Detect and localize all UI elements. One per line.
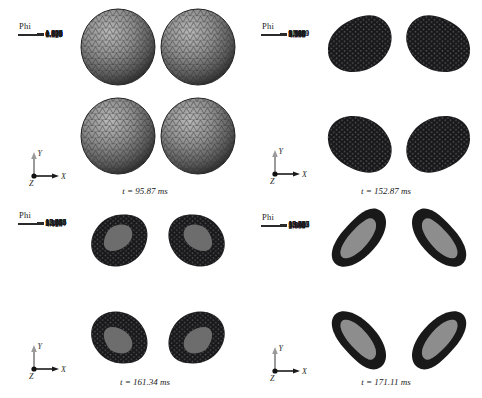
axis-label-z: Z: [270, 374, 275, 383]
colorbar-ticks: 17.219 16.128 15.036 13.945 12.854 11.76…: [37, 223, 66, 225]
body-mesh: [328, 15, 392, 72]
body-mesh: [332, 209, 386, 267]
axis-triad: Y X Z: [26, 148, 78, 188]
mesh-render-area: [319, 4, 479, 184]
body-mesh: [91, 215, 147, 267]
axis-label-y: Y: [279, 344, 285, 353]
panel-171: Phi 19.513 18.: [241, 199, 482, 398]
colorbar-legend: Phi 11.669 11.: [261, 22, 309, 36]
colorbar-gradient: [18, 34, 37, 36]
body-mesh: [332, 311, 386, 369]
axis-triad: Y X Z: [26, 341, 78, 381]
body-mesh: [328, 116, 392, 173]
body-mesh: [168, 215, 224, 267]
colorbar-tick-label: 4.123: [46, 220, 63, 228]
axis-triad: Y X Z: [267, 146, 319, 186]
figure-root: Phi 1.819 1.69: [0, 0, 482, 398]
body-mesh: [412, 209, 466, 267]
colorbar-legend: Phi 17.219 16.: [18, 211, 66, 225]
mesh-render-area: [78, 199, 238, 379]
colorbar-tick-label: 4.598: [289, 31, 306, 39]
body-mesh: [406, 116, 470, 173]
body-mesh: [412, 311, 466, 369]
axis-label-y: Y: [38, 149, 44, 158]
colorbar-legend: Phi 19.513 18.: [261, 213, 309, 227]
colorbar-gradient: [261, 225, 280, 227]
colorbar-tick-label: 0.327: [46, 31, 63, 39]
colorbar-gradient: [18, 223, 37, 225]
axis-label-z: Z: [29, 372, 34, 381]
colorbar-legend: Phi 1.819 1.69: [18, 22, 63, 36]
axis-label-x: X: [60, 365, 67, 374]
colorbar-ticks: 1.819 1.695 1.570 1.446 1.322 1.197 1.07…: [37, 34, 63, 36]
colorbar-gradient: [261, 34, 280, 36]
panel-95: Phi 1.819 1.69: [0, 0, 241, 199]
colorbar-tick-label: 2.088: [289, 222, 306, 230]
axis-label-x: X: [301, 170, 308, 179]
axis-label-z: Z: [29, 179, 34, 188]
panel-caption: t = 171.11 ms: [301, 377, 471, 387]
axis-label-y: Y: [38, 342, 44, 351]
body-mesh: [168, 311, 224, 363]
panel-caption: t = 152.87 ms: [301, 186, 471, 196]
panel-caption: t = 161.34 ms: [60, 377, 230, 387]
colorbar-ticks: 19.513 18.061 16.609 15.157 13.705 12.25…: [280, 225, 309, 227]
body-mesh: [91, 311, 147, 363]
mesh-render-area: [319, 199, 479, 379]
axis-label-x: X: [60, 172, 67, 181]
mesh-render-area: [78, 4, 238, 184]
axis-label-z: Z: [270, 177, 275, 186]
axis-label-y: Y: [279, 147, 285, 156]
panel-152: Phi 11.669 11.: [241, 0, 482, 199]
colorbar-ticks: 11.669 11.080 10.491 9.902 9.312 8.723 8…: [280, 34, 309, 36]
panel-161: Phi 17.219 16.: [0, 199, 241, 398]
axis-label-x: X: [301, 367, 308, 376]
body-mesh: [406, 15, 470, 72]
panel-caption: t = 95.87 ms: [60, 186, 230, 196]
